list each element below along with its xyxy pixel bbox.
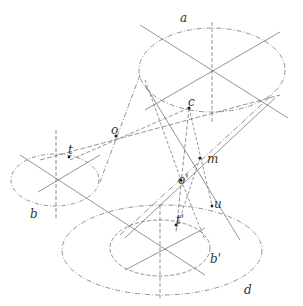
generator-m bbox=[120, 95, 272, 235]
label-t-prime: t' bbox=[176, 214, 184, 226]
label-b-prime: b' bbox=[210, 253, 221, 265]
generator-o-c bbox=[40, 95, 280, 160]
label-o-prime: o' bbox=[178, 174, 189, 186]
label-a: a bbox=[180, 12, 187, 24]
label-c: c bbox=[188, 96, 195, 108]
diagram-svg bbox=[0, 0, 303, 306]
cone-line-1 bbox=[100, 75, 140, 182]
generator-m-2 bbox=[125, 98, 275, 238]
point-m bbox=[198, 156, 201, 159]
label-d: d bbox=[244, 284, 252, 296]
line-o-prime-b bbox=[181, 180, 205, 240]
diagram-canvas: a c o t m o' u t' b' d b bbox=[0, 0, 303, 306]
ellipse-d bbox=[62, 205, 262, 295]
label-o: o bbox=[111, 124, 118, 136]
label-b: b bbox=[30, 208, 38, 220]
axis-d-1 bbox=[125, 228, 205, 270]
point-u bbox=[211, 205, 214, 208]
axis-a-2 bbox=[145, 32, 280, 110]
label-t: t bbox=[68, 144, 73, 156]
label-u: u bbox=[214, 198, 222, 210]
axis-a-1 bbox=[140, 25, 288, 118]
label-m: m bbox=[207, 153, 218, 165]
ellipse-b bbox=[11, 154, 99, 206]
